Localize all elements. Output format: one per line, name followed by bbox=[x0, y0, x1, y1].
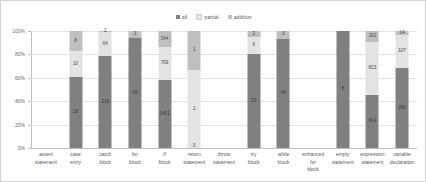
y-axis-tick-label: 100% bbox=[12, 28, 25, 34]
legend-swatch-icon bbox=[228, 15, 232, 19]
chart-legend: allpartialaddition bbox=[1, 14, 426, 20]
bar-value-label: 1461 bbox=[159, 112, 169, 117]
bar-segment-all[interactable]: 239 bbox=[99, 56, 112, 148]
bar-column[interactable]: 120 bbox=[179, 31, 209, 148]
bar-stack[interactable]: 162823814 bbox=[366, 31, 379, 148]
bar-column[interactable]: 14107260 bbox=[387, 31, 417, 148]
bar-segment-all[interactable]: 8 bbox=[336, 31, 349, 148]
bar-column[interactable] bbox=[31, 31, 61, 148]
legend-label: partial bbox=[204, 14, 218, 20]
bar-column[interactable]: 2633 bbox=[239, 31, 269, 148]
bar-segment-addition[interactable]: 162 bbox=[366, 31, 379, 42]
bar-stack[interactable]: 345 bbox=[128, 31, 141, 148]
legend-label: addition bbox=[234, 14, 252, 20]
y-axis-tick-mark bbox=[28, 101, 31, 102]
bar-segment-partial[interactable]: 6 bbox=[247, 37, 260, 54]
bar-segment-all[interactable]: 28 bbox=[69, 77, 82, 148]
x-axis-category-label: assert statement bbox=[31, 151, 61, 174]
y-axis-labels: 100%80%60%40%20%0% bbox=[3, 31, 28, 148]
bar-stack[interactable]: 2633 bbox=[247, 31, 260, 148]
bar-column[interactable]: 3447091461 bbox=[150, 31, 180, 148]
bar-value-label: 162 bbox=[369, 34, 377, 39]
x-axis-category-label: enhanced for block bbox=[298, 151, 328, 174]
bar-value-label: 239 bbox=[101, 100, 109, 105]
bar-column[interactable]: 344 bbox=[269, 31, 299, 148]
bar-segment-all[interactable]: 814 bbox=[366, 95, 379, 148]
bar-segment-addition[interactable]: 8 bbox=[69, 31, 82, 51]
chart-container: allpartialaddition 100%80%60%40%20%0% 81… bbox=[0, 0, 426, 182]
bar-segment-partial[interactable]: 10 bbox=[69, 51, 82, 76]
bar-column[interactable] bbox=[209, 31, 239, 148]
x-axis-category-label: return statement bbox=[179, 151, 209, 174]
x-axis-category-label: variable declaration bbox=[387, 151, 417, 174]
y-axis-tick-mark bbox=[28, 54, 31, 55]
x-axis-category-label: throw statement bbox=[209, 151, 239, 174]
bar-value-label: 3 bbox=[134, 32, 137, 37]
y-axis-tick-label: 20% bbox=[15, 122, 25, 128]
bar-segment-partial[interactable]: 709 bbox=[158, 47, 171, 80]
bar-segment-addition[interactable]: 3 bbox=[128, 31, 141, 38]
bar-value-label: 10 bbox=[73, 62, 78, 67]
bar-value-label: 709 bbox=[161, 61, 169, 66]
bar-segment-partial[interactable]: 64 bbox=[99, 32, 112, 57]
bar-series-group: 8102826423934534470914611202633344816282… bbox=[31, 31, 417, 148]
y-axis-tick-label: 40% bbox=[15, 98, 25, 104]
bar-value-label: 823 bbox=[369, 66, 377, 71]
x-axis-line bbox=[31, 148, 417, 149]
bar-value-label: 2 bbox=[193, 107, 196, 112]
bar-column[interactable]: 81028 bbox=[61, 31, 91, 148]
legend-item-partial[interactable]: partial bbox=[196, 14, 218, 20]
bar-column[interactable]: 8 bbox=[328, 31, 358, 148]
y-axis-tick-label: 80% bbox=[15, 51, 25, 57]
bar-stack[interactable]: 264239 bbox=[99, 31, 112, 148]
y-axis-tick-mark bbox=[28, 78, 31, 79]
y-axis-tick-mark bbox=[28, 31, 31, 32]
legend-swatch-icon bbox=[196, 14, 202, 20]
bar-segment-partial[interactable]: 823 bbox=[366, 42, 379, 96]
y-axis-tick-label: 60% bbox=[15, 75, 25, 81]
x-axis-category-label: case entry bbox=[61, 151, 91, 174]
bar-stack[interactable]: 81028 bbox=[69, 31, 82, 148]
x-axis-category-label: while block bbox=[269, 151, 299, 174]
bar-stack[interactable]: 120 bbox=[188, 31, 201, 148]
bar-segment-partial[interactable]: 2 bbox=[188, 70, 201, 148]
bar-column[interactable]: 345 bbox=[120, 31, 150, 148]
bar-value-label: 107 bbox=[398, 49, 406, 54]
x-axis-category-label: catch block bbox=[90, 151, 120, 174]
legend-item-all[interactable]: all bbox=[176, 14, 187, 20]
bar-stack[interactable]: 344 bbox=[277, 31, 290, 148]
bar-segment-all[interactable]: 44 bbox=[277, 39, 290, 149]
bar-value-label: 33 bbox=[251, 99, 256, 104]
legend-item-addition[interactable]: addition bbox=[228, 14, 252, 20]
y-axis-tick-mark bbox=[28, 125, 31, 126]
bar-column[interactable]: 264239 bbox=[90, 31, 120, 148]
legend-swatch-icon bbox=[176, 15, 180, 19]
bar-segment-all[interactable]: 260 bbox=[396, 68, 409, 148]
bar-segment-all[interactable]: 45 bbox=[128, 38, 141, 148]
x-axis-category-label: expression statement bbox=[358, 151, 388, 174]
bar-value-label: 64 bbox=[103, 42, 108, 47]
bar-segment-addition[interactable]: 3 bbox=[277, 31, 290, 38]
bar-segment-all[interactable]: 33 bbox=[247, 54, 260, 148]
bar-value-label: 1 bbox=[193, 48, 196, 53]
bar-value-label: 8 bbox=[74, 39, 77, 44]
bar-value-label: 344 bbox=[161, 37, 169, 42]
bar-value-label: 260 bbox=[398, 106, 406, 111]
x-axis-labels: assert statementcase entrycatch blockfor… bbox=[31, 151, 417, 174]
bar-column[interactable] bbox=[298, 31, 328, 148]
bar-stack[interactable]: 14107260 bbox=[396, 31, 409, 148]
bar-segment-addition[interactable]: 344 bbox=[158, 31, 171, 47]
bar-value-label: 45 bbox=[132, 91, 137, 96]
bar-stack[interactable]: 8 bbox=[336, 31, 349, 148]
y-axis-tick-mark bbox=[28, 148, 31, 149]
bar-stack[interactable]: 3447091461 bbox=[158, 31, 171, 148]
bar-value-label: 8 bbox=[341, 87, 344, 92]
legend-label: all bbox=[182, 14, 187, 20]
bar-segment-partial[interactable]: 107 bbox=[396, 35, 409, 68]
bar-value-label: 28 bbox=[73, 110, 78, 115]
x-axis-category-label: try block bbox=[239, 151, 269, 174]
x-axis-category-label: for block bbox=[120, 151, 150, 174]
bar-column[interactable]: 162823814 bbox=[358, 31, 388, 148]
bar-segment-all[interactable]: 1461 bbox=[158, 80, 171, 148]
bar-segment-addition[interactable]: 1 bbox=[188, 31, 201, 70]
